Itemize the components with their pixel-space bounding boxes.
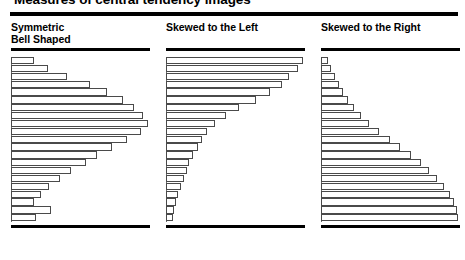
histogram-bar [11,175,60,182]
histogram-bar [321,159,421,166]
histogram-bar [11,73,67,80]
histogram-bar [166,214,173,221]
histogram-bar [11,128,141,135]
histogram-bar [166,112,226,119]
histogram-bar [11,191,41,198]
histogram-bar [321,206,457,213]
chart-top-rule [11,48,150,51]
histogram-bar [11,214,36,221]
bar-group [321,57,460,222]
histogram-bar [166,88,270,95]
title-divider [10,12,458,16]
histogram-bar [11,206,51,213]
histogram-bar [321,167,429,174]
histogram-bar [166,191,178,198]
histogram-bar [321,198,454,205]
histogram-bar [321,81,339,88]
histogram-bar [166,136,202,143]
histogram-bar [11,120,148,127]
chart-title-line-2 [166,34,305,46]
plot-area-symmetric [11,57,150,222]
histogram-bar [321,175,437,182]
histogram-bar [11,198,34,205]
plot-area-skewed-left [166,57,305,222]
histogram-bar [11,159,86,166]
histogram-bar [166,81,282,88]
chart-panel-symmetric-bell-shaped: Symmetric Bell Shaped [11,22,150,242]
histogram-bar [11,96,123,103]
histogram-bar [166,183,181,190]
histogram-bar [11,136,127,143]
histogram-bar [321,112,361,119]
chart-panel-skewed-right: Skewed to the Right [321,22,460,242]
histogram-bar [11,104,134,111]
bar-group [166,57,305,222]
histogram-bar [166,159,189,166]
chart-title-line-2 [321,34,460,46]
histogram-panels: Symmetric Bell Shaped Skewed to the Left… [0,22,465,260]
chart-panel-skewed-left: Skewed to the Left [166,22,305,242]
histogram-bar [321,191,450,198]
histogram-bar [166,206,174,213]
bar-group [11,57,150,222]
chart-title-symmetric: Symmetric Bell Shaped [11,22,150,45]
histogram-bar [166,65,298,72]
histogram-bar [321,65,331,72]
histogram-bar [321,183,444,190]
chart-title-line-1: Symmetric [11,21,64,33]
histogram-bar [166,120,215,127]
histogram-bar [166,57,303,64]
histogram-bar [321,214,458,221]
histogram-bar [321,57,328,64]
histogram-bar [321,96,348,103]
page-title-clip: Measures of central tendency images [0,0,465,9]
histogram-bar [166,198,176,205]
histogram-bar [166,104,239,111]
panel-spacer [166,228,305,242]
histogram-bar [11,143,112,150]
chart-top-rule [321,48,460,51]
histogram-bar [321,143,400,150]
histogram-bar [11,167,71,174]
histogram-bar [321,151,411,158]
chart-title-line-1: Skewed to the Right [321,21,420,33]
histogram-bar [11,88,107,95]
histogram-bar [166,73,289,80]
chart-title-skewed-right: Skewed to the Right [321,22,460,45]
histogram-bar [166,128,207,135]
histogram-bar [166,143,198,150]
plot-area-skewed-right [321,57,460,222]
histogram-bar [321,73,335,80]
histogram-bar [321,104,354,111]
histogram-bar [166,96,256,103]
page-title: Measures of central tendency images [14,0,251,7]
histogram-bar [166,175,184,182]
histogram-bar [11,81,90,88]
chart-title-line-1: Skewed to the Left [166,21,258,33]
histogram-bar [166,151,193,158]
histogram-bar [321,136,390,143]
histogram-bar [321,120,369,127]
chart-title-skewed-left: Skewed to the Left [166,22,305,45]
histogram-bar [321,128,379,135]
histogram-bar [11,65,48,72]
histogram-bar [166,167,187,174]
panel-spacer [321,228,460,242]
histogram-bar [11,151,97,158]
histogram-bar [11,183,49,190]
panel-spacer [11,228,150,242]
histogram-bar [11,57,34,64]
chart-title-line-2: Bell Shaped [11,34,150,46]
histogram-bar [11,112,143,119]
histogram-bar [321,88,343,95]
chart-top-rule [166,48,305,51]
